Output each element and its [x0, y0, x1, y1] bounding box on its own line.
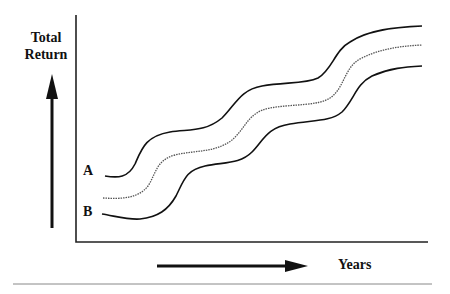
y-axis-label-line1: Total [18, 29, 74, 46]
y-axis-label-line2: Return [18, 46, 74, 63]
plot-axes [76, 15, 428, 242]
return-band-diagram: Total Return A B Years [0, 0, 450, 294]
curve-b [102, 66, 422, 219]
curve-a [105, 26, 422, 177]
curve-middle-dotted [103, 45, 422, 198]
curve-b-label: B [83, 204, 92, 220]
x-axis-label: Years [338, 257, 371, 273]
right-arrow-icon [157, 260, 308, 272]
curve-a-label: A [83, 163, 93, 179]
up-arrow-icon [46, 74, 58, 228]
y-axis-label: Total Return [18, 29, 74, 63]
